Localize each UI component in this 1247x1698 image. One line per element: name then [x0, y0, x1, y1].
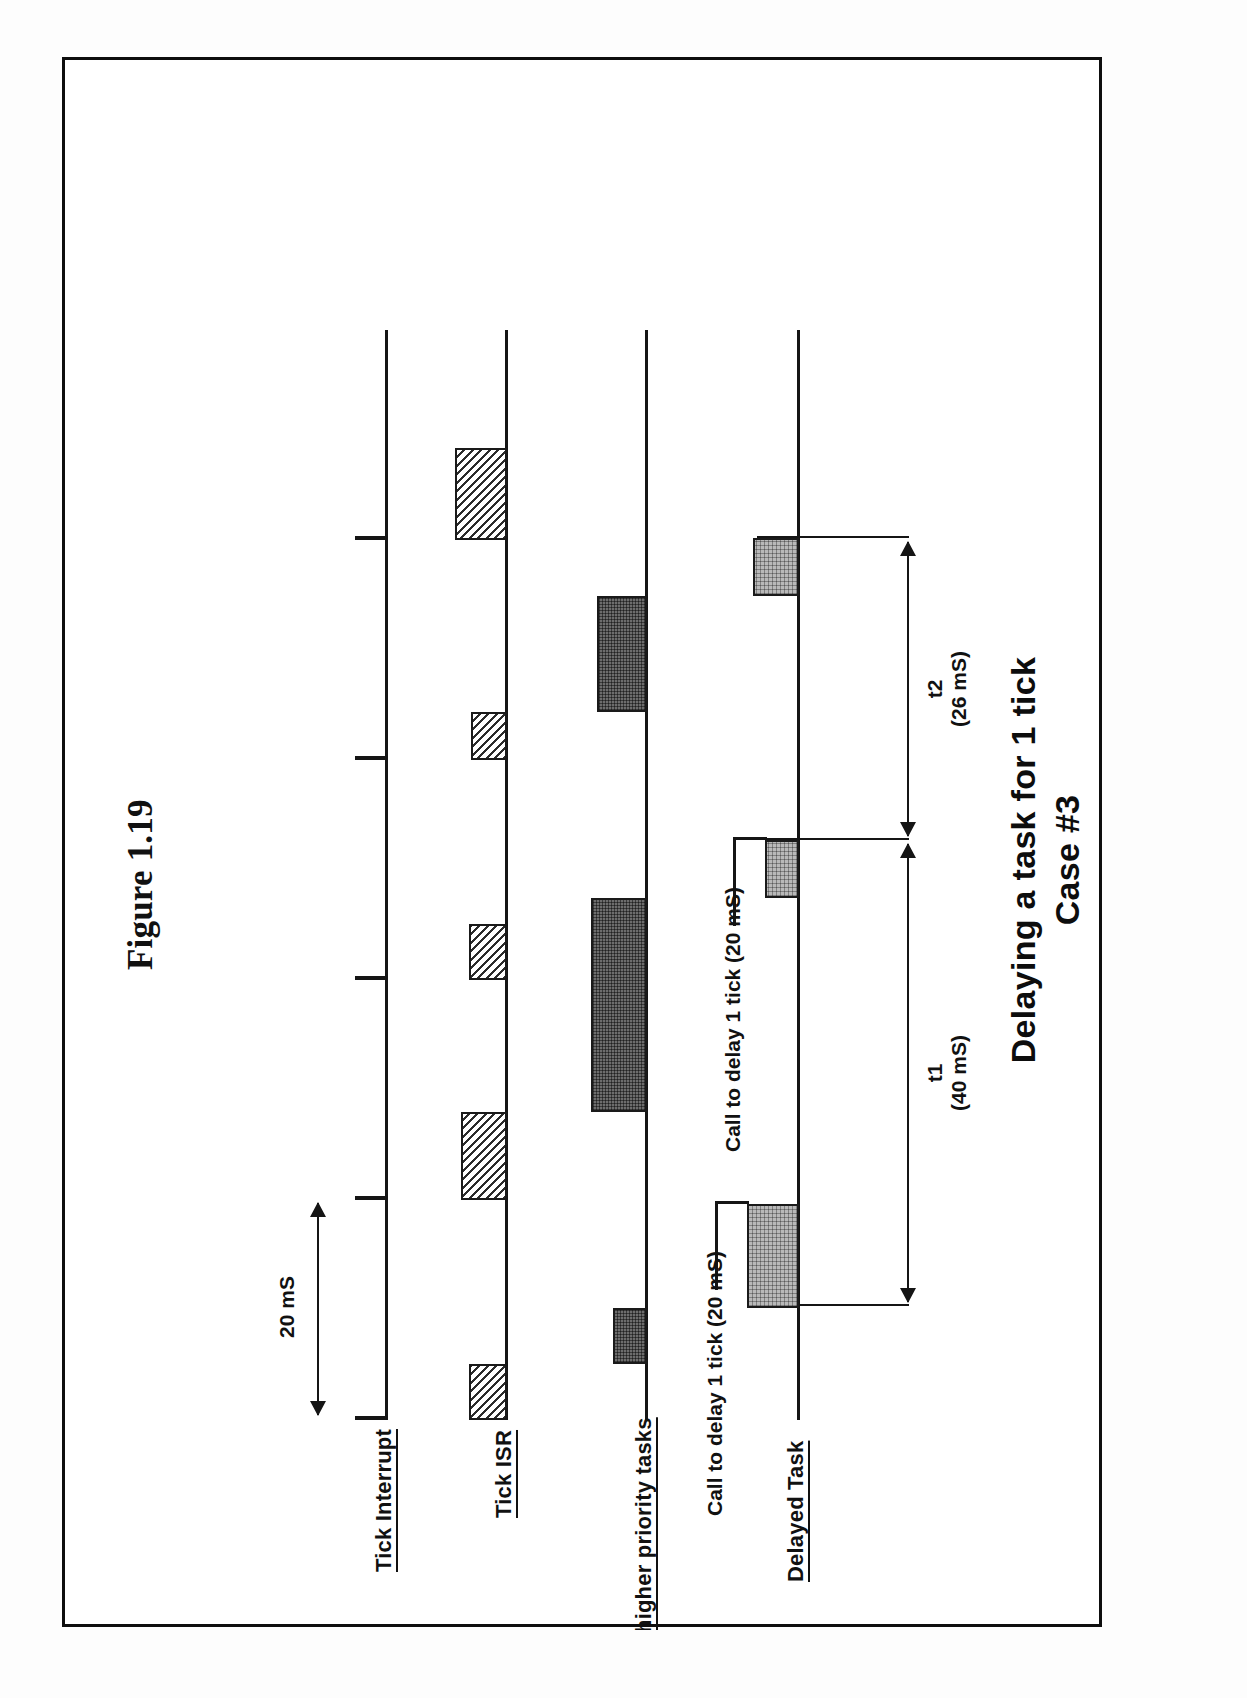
tick-period-dimension-arrow — [317, 1203, 319, 1415]
page-border-frame: Figure 1.19 Tick Interrupt 20 mS — [62, 57, 1102, 1627]
tick-isr-block — [469, 1364, 507, 1420]
callout-call-to-delay-2: Call to delay 1 tick (20 mS) — [721, 887, 745, 1152]
figure-page: Figure 1.19 Tick Interrupt 20 mS — [0, 0, 1247, 1698]
t2-name: t2 — [923, 680, 946, 699]
tick-mark — [355, 756, 385, 760]
delayed-task-block — [753, 538, 799, 596]
higher-priority-tasks-axis — [645, 330, 648, 1420]
figure-caption: Figure 1.19 — [121, 799, 161, 970]
dimension-witness-line — [757, 536, 909, 538]
t1-name: t1 — [923, 1064, 946, 1083]
delayed-task-block — [747, 1204, 799, 1308]
higher-priority-task-block — [591, 898, 647, 1112]
figure-title-line1: Delaying a task for 1 tick — [1004, 657, 1042, 1064]
tick-isr-block — [471, 712, 507, 760]
t1-dimension-arrow — [907, 844, 909, 1302]
row-label-tick-interrupt: Tick Interrupt — [371, 1429, 397, 1572]
higher-priority-task-block — [613, 1308, 647, 1364]
row-label-higher-priority-tasks: All higher priority tasks — [631, 1417, 657, 1630]
timing-diagram-canvas: Figure 1.19 Tick Interrupt 20 mS — [85, 100, 1085, 1590]
tick-mark — [355, 1416, 385, 1420]
t2-value: (26 mS) — [947, 651, 970, 727]
t1-label: t1 (40 mS) — [923, 1008, 971, 1138]
t2-dimension-arrow — [907, 542, 909, 836]
dimension-witness-line — [799, 1304, 909, 1306]
t1-value: (40 mS) — [947, 1035, 970, 1111]
dimension-witness-line — [737, 838, 909, 840]
higher-priority-task-block — [597, 596, 647, 712]
callout-leader-vertical — [715, 1201, 749, 1204]
tick-mark — [355, 536, 385, 540]
tick-period-label: 20 mS — [275, 1242, 299, 1372]
figure-title-line2: Case #3 — [1048, 795, 1086, 926]
delayed-task-block — [765, 840, 799, 898]
figure-title: Delaying a task for 1 tick Case #3 — [1001, 510, 1089, 1210]
tick-mark — [355, 976, 385, 980]
tick-isr-block — [469, 924, 507, 980]
tick-isr-block — [455, 448, 507, 540]
tick-mark — [355, 1196, 385, 1200]
tick-isr-block — [461, 1112, 507, 1200]
tick-interrupt-axis — [385, 330, 388, 1420]
rotated-figure-wrapper: Figure 1.19 Tick Interrupt 20 mS — [65, 60, 1105, 1630]
row-label-delayed-task: Delayed Task — [783, 1441, 809, 1582]
callout-call-to-delay-1: Call to delay 1 tick (20 mS) — [703, 1251, 727, 1516]
row-label-tick-isr: Tick ISR — [491, 1430, 517, 1518]
t2-label: t2 (26 mS) — [923, 624, 971, 754]
